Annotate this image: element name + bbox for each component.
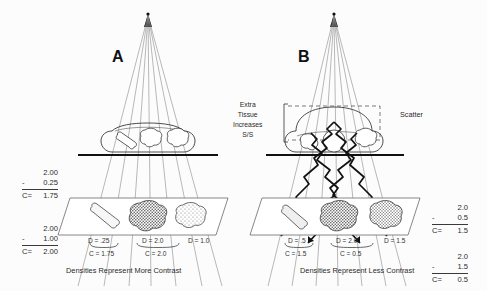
contrast-label-a-2: C = 2.0 [145, 250, 166, 257]
calc-b1-rule [432, 224, 468, 225]
light-image-a [176, 202, 207, 227]
calc-a2-operator: - [22, 234, 31, 244]
bone-icon-a [116, 132, 136, 149]
calc-b2-rule [432, 273, 468, 274]
figure-canvas: A B 2.00 -0.25 C=1.75 2.00 -1.00 C=2.00 … [0, 0, 487, 291]
calc-a2-result: 2.00 [35, 247, 58, 257]
calc-b1-minuend: 2.0 [441, 203, 468, 213]
extra-tissue-line-3: Increases [233, 120, 262, 130]
contrast-label-b-1: C = 1.5 [285, 250, 306, 257]
calc-b2-result-label: C= [432, 275, 445, 285]
density-label-b-2: D = 2.0 [336, 237, 357, 244]
calc-a2-rule [22, 245, 58, 246]
calculation-a-2: 2.00 -1.00 C=2.00 [22, 224, 58, 257]
calc-b2-result: 0.5 [445, 275, 468, 285]
calc-b1-subtrahend: 0.5 [441, 213, 468, 223]
extra-tissue-line-1: Extra [233, 100, 262, 110]
extra-tissue-line-2: Tissue [233, 110, 262, 120]
density-label-a-2: D = 2.0 [142, 237, 163, 244]
calc-b1-result-label: C= [432, 226, 445, 236]
calc-b1-result: 1.5 [445, 226, 468, 236]
extra-tissue-line-4: S/S [233, 130, 262, 140]
density-label-b-1: D = .5 [288, 237, 306, 244]
calc-b2-minuend: 2.0 [441, 252, 468, 262]
calculation-b-2: 2.0 -1.5 C=0.5 [432, 252, 468, 285]
contrast-label-a-1: C = 1.75 [89, 250, 114, 257]
caption-a: Densities Represent More Contrast [66, 266, 181, 275]
primary-beam-rays-a [78, 16, 222, 286]
calc-a1-result: 1.75 [35, 191, 58, 201]
calc-a1-rule [22, 189, 58, 190]
dense-tissue-icon-a [140, 128, 162, 147]
density-label-b-3: D = 1.5 [384, 237, 405, 244]
light-tissue-icon-b [355, 128, 377, 147]
calc-a1-subtrahend: 0.25 [31, 178, 58, 188]
calc-b2-subtrahend: 1.5 [441, 262, 468, 272]
calculation-b-1: 2.0 -0.5 C=1.5 [432, 203, 468, 236]
calc-b1-operator: - [432, 213, 441, 223]
caption-b: Densities Represent Less Contrast [300, 266, 414, 275]
panel-b-artwork [250, 12, 420, 286]
panel-a-artwork [58, 12, 228, 286]
calc-a2-result-label: C= [22, 247, 35, 257]
diagram-artwork [0, 0, 487, 291]
density-label-a-1: D = .25 [88, 237, 109, 244]
scatter-label: Scatter [400, 110, 423, 120]
extra-tissue-label: Extra Tissue Increases S/S [233, 100, 262, 139]
light-tissue-icon-a [167, 128, 189, 147]
calc-a1-minuend: 2.00 [31, 168, 58, 178]
panel-label-b: B [298, 48, 310, 66]
calc-b2-operator: - [432, 262, 441, 272]
calculation-a-1: 2.00 -0.25 C=1.75 [22, 168, 58, 201]
calc-a2-subtrahend: 1.00 [31, 234, 58, 244]
calc-a1-result-label: C= [22, 191, 35, 201]
calc-a2-minuend: 2.00 [31, 224, 58, 234]
contrast-label-b-2: C = 0.5 [340, 250, 361, 257]
density-label-a-3: D = 1.0 [188, 237, 209, 244]
panel-label-a: A [112, 48, 124, 66]
calc-a1-operator: - [22, 178, 31, 188]
